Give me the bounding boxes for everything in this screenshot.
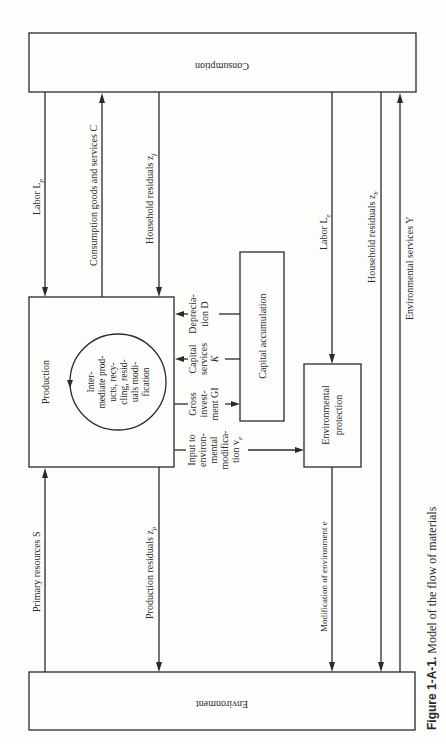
intermediate-cycle-circle [70, 334, 166, 430]
environment-node: Environment [29, 672, 415, 730]
flow-of-materials-diagram: Consumption Environment Production Inter… [0, 0, 446, 744]
svg-text:Deprecia-: Deprecia- [187, 294, 198, 333]
flow-labor-lp: Labor Lp [31, 92, 48, 297]
svg-text:Modification of environment e: Modification of environment e [319, 521, 329, 632]
flow-primary-resources: Primary resources S [31, 468, 48, 672]
svg-text:Labor Le: Labor Le [318, 214, 332, 250]
production-node: Production Inter- mediate prod- ucts, re… [29, 297, 174, 467]
svg-text:invest-: invest- [198, 390, 209, 417]
svg-text:Production residuals zp: Production residuals zp [144, 526, 158, 619]
svg-text:uals modi-: uals modi- [130, 362, 140, 402]
svg-text:Labor Lp: Labor Lp [31, 179, 45, 216]
flow-household-residuals-zh: Household residuals zh [366, 92, 384, 672]
cycle-arrow-icon [67, 380, 73, 388]
svg-text:Environmental services Y: Environmental services Y [404, 217, 415, 321]
flow-consumption-goods: Consumption goods and services C [88, 93, 105, 297]
intermediate-label: Inter- mediate prod- ucts, recy- cling, … [86, 355, 151, 408]
svg-text:Household residuals zh: Household residuals zh [366, 191, 380, 283]
svg-text:tion ve: tion ve [230, 437, 244, 463]
svg-text:ucts, recy-: ucts, recy- [108, 362, 118, 402]
svg-text:fication: fication [141, 367, 151, 396]
consumption-label: Consumption [195, 61, 249, 72]
svg-text:services: services [198, 343, 209, 375]
figure-caption: Figure 1-A-1. Model of the flow of mater… [425, 506, 439, 730]
svg-text:environ-: environ- [197, 433, 208, 467]
svg-text:Consumption goods and service: Consumption goods and services C [88, 125, 99, 266]
flow-capital-services: Capital services K [175, 343, 240, 375]
svg-text:Capital: Capital [187, 344, 198, 373]
production-label: Production [40, 360, 51, 404]
flow-environmental-services: Environmental services Y [397, 93, 415, 672]
flow-production-residuals: Production residuals zp [144, 467, 162, 672]
svg-text:Household residuals zf: Household residuals zf [144, 153, 158, 244]
capital-accumulation-label: Capital accumulation [257, 293, 268, 378]
svg-text:Environmental: Environmental [320, 385, 331, 445]
svg-text:protection: protection [333, 395, 344, 436]
flow-modification-environment: Modification of environment e [319, 467, 335, 672]
svg-text:mediate prod-: mediate prod- [97, 355, 107, 408]
flow-input-env-modification: Input to environ- mental modifica- tion … [174, 431, 304, 470]
flow-depreciation: Deprecia- tion D [175, 294, 240, 333]
environment-label: Environment [196, 699, 248, 710]
flow-labor-le: Labor Le [318, 92, 335, 364]
svg-text:cling, resid-: cling, resid- [119, 359, 129, 404]
svg-text:Inter-: Inter- [86, 372, 96, 393]
svg-text:mental: mental [208, 436, 219, 463]
svg-text:K: K [209, 354, 220, 363]
svg-text:Gross: Gross [187, 392, 198, 415]
svg-text:Primary resources S: Primary resources S [31, 531, 42, 612]
svg-text:modifica-: modifica- [219, 431, 230, 470]
capital-accumulation-node: Capital accumulation [240, 252, 284, 421]
svg-text:ment GI: ment GI [209, 387, 220, 420]
svg-text:tion D: tion D [199, 301, 210, 326]
environmental-protection-node: Environmental protection [304, 364, 361, 467]
consumption-node: Consumption [29, 33, 416, 92]
svg-text:Input to: Input to [186, 434, 197, 465]
flow-gross-investment: Gross invest- ment GI [174, 387, 240, 420]
flow-household-residuals-zf: Household residuals zf [144, 92, 162, 297]
